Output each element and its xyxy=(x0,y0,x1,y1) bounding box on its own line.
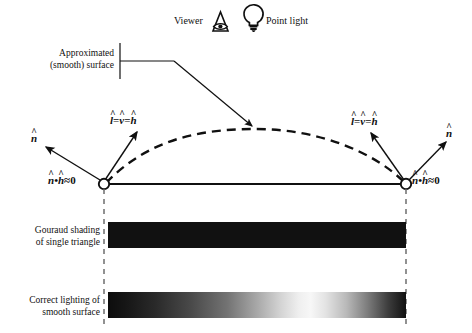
hat-glyph: ^ xyxy=(119,109,124,119)
correct-lighting-caption: Correct lighting of smooth surface xyxy=(0,295,100,318)
gouraud-caption-line1: Gouraud shading xyxy=(0,225,100,237)
left-lvh-arrow xyxy=(105,132,137,180)
approx-surface-leader xyxy=(120,43,252,126)
hat-glyph: ^ xyxy=(412,169,418,179)
right-lvh-arrow xyxy=(371,133,404,180)
right-ndoth-label: ^n•^h≈0 xyxy=(412,175,440,186)
hat-glyph: ^ xyxy=(446,122,452,132)
viewer-eye-triangle-icon xyxy=(213,12,228,31)
hat-glyph: ^ xyxy=(372,110,378,120)
viewer-label: Viewer xyxy=(174,15,203,26)
point-light-label: Point light xyxy=(266,15,308,26)
zero-value: 0 xyxy=(70,174,76,186)
hat-glyph: ^ xyxy=(422,169,428,179)
figure-canvas: Viewer Point light Approximated (smooth)… xyxy=(0,0,472,333)
right-vertex-marker xyxy=(401,179,411,189)
left-lvh-label: ^l=^v=^h xyxy=(110,115,137,126)
correct-lighting-caption-line1: Correct lighting of xyxy=(0,295,100,307)
approx-surface-caption-line1: Approximated xyxy=(0,48,114,60)
left-ndoth-label: ^n•^h≈0 xyxy=(48,175,76,186)
gouraud-caption: Gouraud shading of single triangle xyxy=(0,225,100,248)
hat-glyph: ^ xyxy=(351,110,354,120)
correct-lighting-bar xyxy=(108,292,406,318)
hat-glyph: ^ xyxy=(48,169,54,179)
smooth-surface-arc xyxy=(106,129,404,183)
hat-glyph: ^ xyxy=(31,127,37,137)
right-outer-normal-label: ^n xyxy=(446,128,452,139)
gouraud-shading-bar xyxy=(108,222,406,248)
approx-surface-caption-line2: (smooth) surface xyxy=(0,60,114,72)
zero-value: 0 xyxy=(434,174,440,186)
gouraud-caption-line2: of single triangle xyxy=(0,237,100,249)
point-light-bulb-icon xyxy=(244,5,263,32)
approx-surface-caption: Approximated (smooth) surface xyxy=(0,48,114,71)
hat-glyph: ^ xyxy=(131,109,137,119)
hat-glyph: ^ xyxy=(360,110,365,120)
right-lvh-label: ^l=^v=^h xyxy=(351,116,378,127)
hat-glyph: ^ xyxy=(110,109,113,119)
hat-glyph: ^ xyxy=(58,169,64,179)
correct-lighting-caption-line2: smooth surface xyxy=(0,307,100,319)
left-vertex-marker xyxy=(99,179,109,189)
left-outer-normal-label: ^n xyxy=(31,133,37,144)
